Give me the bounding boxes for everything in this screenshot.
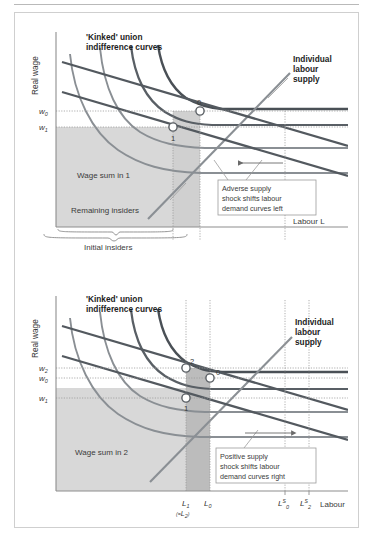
supply-label-top-line3: supply [293,74,320,84]
annotation-bottom-line2: shock shifts labour [220,462,280,471]
brace-outer-label-top: Initial insiders [84,243,132,252]
x-tick-bottom-L2S: LS2 [300,498,311,510]
brace-inner-label-top: Remaining insiders [71,206,139,215]
supply-label-bottom-line3: supply [295,337,322,347]
supply-label-bottom-line2: labour [295,327,321,337]
annotation-top-line3: demand curves left [222,204,283,213]
point-label-top-1: 1 [171,134,175,143]
x-axis-title-top: Labour L [293,217,325,226]
point-top-0 [196,107,204,115]
supply-label-leader-bottom [270,340,290,360]
y-tick-bottom-w0: w0 [39,374,48,384]
x-tick-bottom-L1: L1 [182,499,189,509]
y-tick-top-w0: w0 [39,107,48,117]
indifference-label-top-line1: 'Kinked' union [86,32,143,42]
indifference-label-bottom-line2: indifference curves [86,304,162,314]
supply-label-top-line1: Individual [293,54,332,64]
indifference-label-bottom-line1: 'Kinked' union [86,294,143,304]
x-tick-bottom-L0S: LS0 [278,498,289,510]
x-tick-bottom-L0: L0 [204,499,211,509]
point-top-1 [169,123,177,131]
point-bottom-1 [182,394,190,402]
annotation-bottom-line3: demand curves right [220,472,285,481]
y-tick-bottom-w1: w1 [39,394,48,404]
area-label-bottom: Wage sum in 2 [75,448,129,457]
annotation-top-line1: Adverse supply [222,184,272,193]
indifference-label-top-line2: indifference curves [86,42,162,52]
y-axis-title-bottom: Real wage [31,319,40,358]
x-axis-title-bottom: Labour [320,500,345,509]
point-label-bottom-2: 2 [190,357,194,366]
point-bottom-0 [206,374,214,382]
annotation-leader-top-b [214,160,228,180]
point-label-bottom-0: 0 [216,368,220,377]
figure-canvas: Real wage Labour L 'Kinked' union indiff… [0,0,373,542]
figure-page: Real wage Labour L 'Kinked' union indiff… [0,0,373,542]
supply-label-bottom-line1: Individual [295,317,334,327]
annotation-bottom-line1: Positive supply [220,452,268,461]
annotation-top-line2: shock shifts labour [222,194,282,203]
x-tick-bottom-note: (=L2) [176,510,190,519]
y-tick-bottom-w2: w2 [39,364,48,374]
point-bottom-2 [182,364,190,372]
point-label-bottom-1: 1 [184,404,188,413]
brace-remaining-insiders [58,229,173,235]
y-axis-title-top: Real wage [31,56,40,95]
panel-top: Real wage Labour L 'Kinked' union indiff… [31,32,348,252]
supply-label-leader-top [268,78,288,98]
shade-wage-sum-2 [56,388,186,491]
area-label-top: Wage sum in 1 [77,171,131,180]
point-label-top-0: 0 [197,98,201,107]
panel-bottom: Real wage Labour 'Kinked' union indiffer… [31,294,348,519]
supply-label-top-line2: labour [293,64,319,74]
y-tick-top-w1: w1 [39,123,48,133]
